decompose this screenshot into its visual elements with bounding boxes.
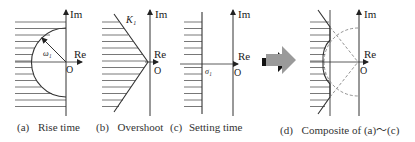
im-label-a: Im [70, 8, 83, 20]
k1-label: K₁ [125, 14, 136, 25]
caption-b-tag: (b) [96, 121, 109, 133]
re-label-d: Re [364, 48, 376, 60]
right-arrow-icon [262, 46, 296, 74]
panel-a-rise-time: Im Re O ω₁ [15, 8, 86, 116]
omega-label: ω₁ [43, 49, 52, 58]
panel-c-setting-time: Im Re O σ₁ [180, 8, 251, 116]
caption-a: (a) Rise time [17, 121, 80, 133]
panel-d-composite: Im Re O [310, 8, 377, 116]
origin-label-a: O [66, 64, 73, 75]
caption-a-title: Rise time [38, 121, 80, 133]
caption-c-tag: (c) [170, 121, 182, 133]
hatch-region-b [102, 22, 147, 107]
re-label-c: Re [238, 50, 250, 62]
caption-d: (d) Composite of (a)～(c) [280, 121, 399, 137]
origin-label-c: O [234, 67, 241, 78]
panel-b-overshoot: Im Re O K₁ [102, 8, 168, 116]
caption-d-title: Composite of (a)～(c) [302, 124, 400, 136]
re-label-a: Re [74, 48, 86, 60]
hatch-region-a [15, 22, 66, 107]
im-label-c: Im [238, 8, 251, 20]
origin-label-d: O [360, 65, 367, 76]
re-label-b: Re [154, 48, 166, 60]
hatch-region-d [310, 22, 330, 107]
caption-b: (b) Overshoot [96, 121, 163, 133]
caption-a-tag: (a) [17, 121, 29, 133]
caption-d-tag: (d) [280, 124, 293, 136]
sigma1-label: σ₁ [205, 67, 212, 76]
caption-c: (c) Setting time [170, 121, 242, 133]
origin-label-b: O [154, 65, 161, 76]
im-label-d: Im [364, 8, 377, 20]
caption-b-title: Overshoot [118, 121, 164, 133]
im-label-b: Im [155, 8, 168, 20]
caption-c-title: Setting time [189, 121, 242, 133]
